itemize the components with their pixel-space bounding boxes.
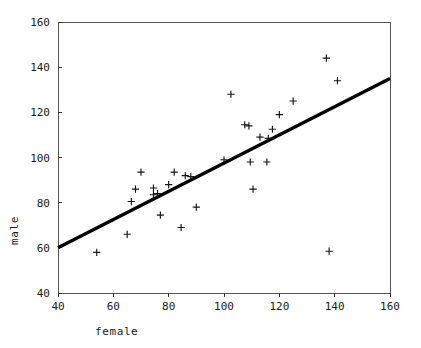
x-tick-label: 60 — [107, 300, 120, 313]
data-point-marker — [93, 249, 100, 256]
x-tick-label: 120 — [269, 300, 289, 313]
x-tick-label: 40 — [51, 300, 64, 313]
data-point-marker — [263, 158, 270, 165]
data-point-marker — [182, 172, 189, 179]
y-tick-label: 80 — [37, 197, 50, 210]
data-point-marker — [323, 55, 330, 62]
y-tick-label: 160 — [30, 16, 50, 29]
y-tick-label: 140 — [30, 61, 50, 74]
x-tick-label: 160 — [380, 300, 400, 313]
data-point-marker — [132, 186, 139, 193]
x-tick-label: 140 — [325, 300, 345, 313]
data-point-marker — [227, 91, 234, 98]
data-point-marker — [124, 231, 131, 238]
y-tick-label: 120 — [30, 106, 50, 119]
data-point-marker — [165, 181, 172, 188]
data-point-marker — [241, 121, 248, 128]
y-tick-label: 100 — [30, 152, 50, 165]
x-axis-title: female — [95, 325, 138, 338]
data-point-marker — [150, 184, 157, 191]
y-axis-title: male — [8, 216, 21, 245]
scatter-plot-figure: 406080100120140160406080100120140160fema… — [0, 0, 421, 348]
data-point-marker — [326, 248, 333, 255]
data-point-marker — [276, 111, 283, 118]
data-point-marker — [178, 224, 185, 231]
data-point-marker — [157, 211, 164, 218]
y-tick-label: 40 — [37, 287, 50, 300]
data-point-marker — [193, 204, 200, 211]
data-point-marker — [334, 77, 341, 84]
data-point-marker — [269, 126, 276, 133]
data-point-marker — [171, 169, 178, 176]
x-tick-label: 80 — [162, 300, 175, 313]
data-point-marker — [245, 122, 252, 129]
data-point-marker — [137, 169, 144, 176]
data-point-marker — [256, 134, 263, 141]
data-point-marker — [247, 158, 254, 165]
data-point-marker — [249, 186, 256, 193]
y-tick-label: 60 — [37, 242, 50, 255]
data-point-marker — [290, 97, 297, 104]
x-tick-label: 100 — [214, 300, 234, 313]
data-point-marker — [128, 198, 135, 205]
chart-canvas: 406080100120140160406080100120140160fema… — [0, 0, 421, 348]
